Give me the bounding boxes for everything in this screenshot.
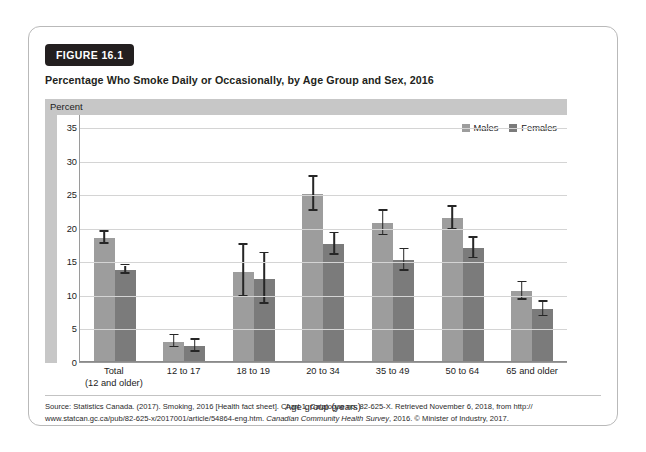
x-tick-label-main: Total <box>104 366 124 376</box>
source-line-1: Source: Statistics Canada. (2017). Smoki… <box>45 402 533 411</box>
bar-groups <box>80 115 567 362</box>
error-bar <box>403 249 405 270</box>
bar-males[interactable] <box>233 114 254 362</box>
error-cap-lower <box>469 257 478 259</box>
error-cap-upper <box>308 175 317 177</box>
x-tick-label-main: 65 and older <box>506 366 558 376</box>
error-bar <box>382 211 384 236</box>
error-cap-lower <box>517 298 526 300</box>
error-bar <box>521 282 523 299</box>
bar-rect <box>532 309 553 362</box>
page-title: Percentage Who Smoke Daily or Occasional… <box>45 74 601 86</box>
error-cap-upper <box>378 209 387 211</box>
error-bar <box>472 238 474 258</box>
figure-page: FIGURE 16.1 Percentage Who Smoke Daily o… <box>0 0 646 452</box>
error-cap-lower <box>538 315 547 317</box>
gridline <box>80 262 567 263</box>
y-tick-label: 20 <box>67 224 77 234</box>
error-cap-upper <box>100 230 109 232</box>
source-line-2a: www.statcan.gc.ca/pub/82-625-x/2017001/a… <box>45 414 266 423</box>
error-cap-lower <box>399 269 408 271</box>
x-tick-label: 20 to 34 <box>290 365 356 389</box>
y-tick-label: 35 <box>67 123 77 133</box>
bar-males[interactable] <box>372 114 393 362</box>
x-tick-label-main: 50 to 64 <box>446 366 480 376</box>
error-cap-lower <box>260 302 269 304</box>
x-axis-line <box>80 361 567 362</box>
error-cap-upper <box>448 205 457 207</box>
source-divider <box>45 395 601 396</box>
bar-females[interactable] <box>115 114 136 362</box>
bar-males[interactable] <box>302 114 323 362</box>
bar-rect <box>463 248 484 362</box>
bar-rect <box>94 238 115 362</box>
chart-container: Percent 05101520253035 Males Females <box>45 99 567 377</box>
y-tick-label: 30 <box>67 157 77 167</box>
bar-females[interactable] <box>323 114 344 362</box>
gridline <box>80 296 567 297</box>
x-tick-label: Total(12 and older) <box>81 365 147 389</box>
percent-header-band <box>45 99 567 115</box>
bar-males[interactable] <box>511 114 532 362</box>
error-cap-upper <box>329 232 338 234</box>
y-tick-label: 15 <box>67 257 77 267</box>
error-cap-upper <box>190 338 199 340</box>
x-tick-label-main: 12 to 17 <box>167 366 201 376</box>
bar-rect <box>393 260 414 362</box>
bar-males[interactable] <box>94 114 115 362</box>
bar-group <box>442 115 484 362</box>
bar-rect <box>372 223 393 362</box>
error-cap-upper <box>538 300 547 302</box>
bar-males[interactable] <box>163 114 184 362</box>
error-cap-upper <box>469 236 478 238</box>
source-survey-name: Canadian Community Health Survey <box>266 414 389 423</box>
bar-group <box>302 115 344 362</box>
x-tick-label: 35 to 49 <box>360 365 426 389</box>
y-axis-ticks: 05101520253035 <box>57 115 79 363</box>
x-tick-label: 12 to 17 <box>151 365 217 389</box>
bar-rect <box>302 194 323 362</box>
error-bar <box>243 245 245 297</box>
bar-females[interactable] <box>254 114 275 362</box>
x-axis-ticks: Total(12 and older)12 to 1718 to 1920 to… <box>79 365 567 389</box>
gridline <box>80 229 567 230</box>
bar-females[interactable] <box>184 114 205 362</box>
bar-males[interactable] <box>442 114 463 362</box>
y-tick-label: 10 <box>67 291 77 301</box>
x-tick-label: 50 to 64 <box>429 365 495 389</box>
bar-group <box>94 115 136 362</box>
bar-group <box>233 115 275 362</box>
error-cap-upper <box>121 264 130 266</box>
error-cap-lower <box>308 209 317 211</box>
bar-group <box>511 115 553 362</box>
bar-females[interactable] <box>463 114 484 362</box>
y-tick-label: 0 <box>72 358 77 368</box>
figure-card: FIGURE 16.1 Percentage Who Smoke Daily o… <box>28 26 618 426</box>
error-cap-upper <box>239 243 248 245</box>
figure-number-badge: FIGURE 16.1 <box>45 44 134 66</box>
x-tick-label-main: 18 to 19 <box>236 366 270 376</box>
error-cap-lower <box>121 272 130 274</box>
error-bar <box>451 207 453 230</box>
gridline <box>80 329 567 330</box>
error-cap-upper <box>260 252 269 254</box>
error-cap-lower <box>190 350 199 352</box>
error-cap-lower <box>169 346 178 348</box>
error-cap-lower <box>378 234 387 236</box>
bar-rect <box>115 270 136 362</box>
x-tick-label-main: 35 to 49 <box>376 366 410 376</box>
bar-rect <box>511 291 532 362</box>
bar-females[interactable] <box>393 114 414 362</box>
y-tick-label: 25 <box>67 190 77 200</box>
x-tick-label-main: 20 to 34 <box>306 366 340 376</box>
axis-gutter <box>45 115 57 363</box>
bar-rect <box>442 218 463 362</box>
y-tick-label: 5 <box>72 324 77 334</box>
bar-females[interactable] <box>532 114 553 362</box>
error-cap-lower <box>329 253 338 255</box>
y-axis-title: Percent <box>50 101 83 112</box>
error-cap-lower <box>100 242 109 244</box>
source-note: Source: Statistics Canada. (2017). Smoki… <box>45 401 607 424</box>
source-line-2b: , 2016. © Minister of Industry, 2017. <box>389 414 509 423</box>
error-cap-upper <box>169 334 178 336</box>
